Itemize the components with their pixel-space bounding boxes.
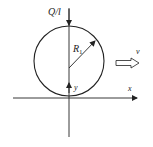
velocity-label: v bbox=[136, 47, 140, 56]
x-axis-label: x bbox=[127, 84, 132, 93]
load-label: Q/l bbox=[48, 6, 61, 17]
y-axis-label: y bbox=[73, 83, 78, 92]
cylinder-diagram: Q/l R1 v x y bbox=[0, 0, 153, 147]
radius-label: R1 bbox=[72, 43, 83, 56]
velocity-arrow-icon bbox=[116, 58, 139, 68]
